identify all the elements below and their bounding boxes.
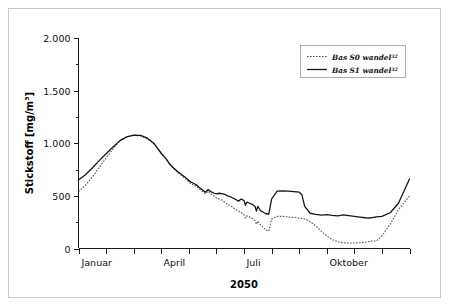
y-axis-tick-labels: 05001.0001.5002.000 — [43, 33, 70, 255]
plot-series-group — [79, 135, 410, 243]
x-axis-group: JanuarAprilJuliOktober 2050 — [79, 249, 411, 291]
y-tick-label: 500 — [52, 191, 70, 202]
x-axis-tick-labels: JanuarAprilJuliOktober — [81, 257, 368, 268]
y-axis-group: 05001.0001.5002.000 Stickstoff [mg/m³] — [24, 33, 79, 255]
figure-container: 05001.0001.5002.000 Stickstoff [mg/m³] J… — [0, 0, 451, 308]
legend: Bas S0 wandel32 Bas S1 wandel32 — [301, 46, 406, 78]
y-tick-label: 2.000 — [43, 33, 70, 44]
nitrogen-timeseries-chart: 05001.0001.5002.000 Stickstoff [mg/m³] J… — [0, 0, 451, 308]
y-axis-title: Stickstoff [mg/m³] — [24, 92, 35, 194]
x-tick-label: April — [164, 257, 186, 268]
legend-label-0: Bas S0 wandel32 — [331, 53, 398, 62]
x-tick-label: Oktober — [330, 257, 368, 268]
y-tick-label: 1.000 — [43, 138, 70, 149]
x-axis-ticks — [80, 249, 411, 254]
y-axis-ticks — [74, 39, 79, 250]
y-tick-label: 1.500 — [43, 86, 70, 97]
x-axis-title: 2050 — [230, 279, 258, 290]
series-line-bas-s0-wandel — [79, 135, 410, 243]
x-tick-label: Januar — [81, 257, 112, 268]
series-line-bas-s1-wandel — [79, 135, 410, 218]
x-tick-label: Juli — [246, 257, 261, 268]
y-tick-label: 0 — [64, 244, 70, 255]
legend-label-1: Bas S1 wandel32 — [331, 66, 398, 75]
